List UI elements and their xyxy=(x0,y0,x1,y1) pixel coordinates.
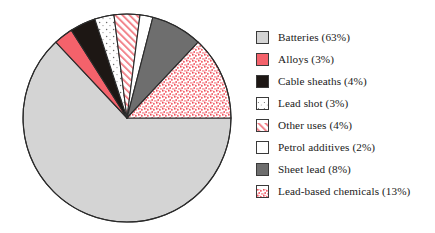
legend-item-batteries[interactable]: Batteries (63%) xyxy=(256,26,432,48)
swatch-solid-red-icon xyxy=(256,53,269,66)
diagonal-hatch-pattern-icon xyxy=(257,123,268,132)
swatch-solid-black-icon xyxy=(256,75,269,88)
pie-chart-svg xyxy=(0,0,250,233)
swatch-dense-speckle-icon xyxy=(256,185,269,198)
swatch-sparse-dots-icon xyxy=(256,97,269,110)
swatch-solid-light-gray-icon xyxy=(256,31,269,44)
legend-item-label: Lead shot (3%) xyxy=(278,97,348,109)
legend-item-label: Sheet lead (8%) xyxy=(278,163,351,175)
swatch-solid-dark-gray-icon xyxy=(256,163,269,176)
legend-item-lead-shot[interactable]: Lead shot (3%) xyxy=(256,92,432,114)
legend-item-cable-sheaths[interactable]: Cable sheaths (4%) xyxy=(256,70,432,92)
legend-item-sheet-lead[interactable]: Sheet lead (8%) xyxy=(256,158,432,180)
sparse-dots-pattern-icon xyxy=(257,101,268,110)
legend-item-label: Cable sheaths (4%) xyxy=(278,75,367,87)
legend-item-other-uses[interactable]: Other uses (4%) xyxy=(256,114,432,136)
dense-speckle-pattern-icon xyxy=(257,189,268,198)
legend-item-label: Alloys (3%) xyxy=(278,53,334,65)
legend: Batteries (63%) Alloys (3%) Cable sheath… xyxy=(256,26,432,202)
pie-slice-group xyxy=(23,14,231,222)
legend-item-label: Petrol additives (2%) xyxy=(278,141,375,153)
swatch-diagonal-hatch-icon xyxy=(256,119,269,132)
legend-item-label: Batteries (63%) xyxy=(278,31,350,43)
legend-item-label: Other uses (4%) xyxy=(278,119,352,131)
legend-item-petrol-additives[interactable]: Petrol additives (2%) xyxy=(256,136,432,158)
legend-item-alloys[interactable]: Alloys (3%) xyxy=(256,48,432,70)
legend-item-label: Lead-based chemicals (13%) xyxy=(278,185,410,197)
pie-chart-figure: Batteries (63%) Alloys (3%) Cable sheath… xyxy=(0,0,435,233)
swatch-white-icon xyxy=(256,141,269,154)
pie-chart-plot-area xyxy=(0,0,250,233)
legend-item-lead-based-chemicals[interactable]: Lead-based chemicals (13%) xyxy=(256,180,432,202)
